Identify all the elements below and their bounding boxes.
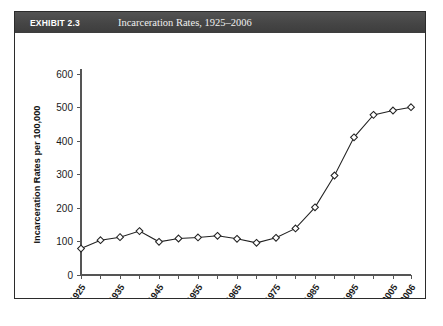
x-axis-tick-label: 1925 — [68, 282, 88, 298]
x-axis-tick-label: 2005 — [380, 282, 400, 298]
exhibit-title: Incarceration Rates, 1925–2006 — [118, 17, 252, 28]
x-axis-tick-label: 1935 — [107, 282, 127, 298]
data-point-marker — [331, 172, 338, 179]
x-axis-tick-label: 1965 — [224, 282, 244, 298]
x-axis: 1925193519451955196519751985199520052006 — [68, 275, 418, 298]
data-point-marker — [408, 104, 415, 111]
data-point-marker — [156, 238, 163, 245]
chart-plot-area: 0100200300400500600 19251935194519551965… — [15, 33, 425, 298]
x-axis-tick-label: 1945 — [146, 282, 166, 298]
incarceration-rates-line-chart: 0100200300400500600 19251935194519551965… — [15, 33, 425, 298]
data-point-marker — [234, 235, 241, 242]
y-axis-tick-label: 600 — [56, 69, 73, 80]
data-point-marker — [253, 239, 260, 246]
data-point-marker — [214, 232, 221, 239]
y-axis-tick-label: 200 — [56, 203, 73, 214]
data-point-marker — [390, 107, 397, 114]
exhibit-frame: EXHIBIT 2.3 Incarceration Rates, 1925–20… — [14, 11, 426, 299]
series-line-path — [81, 107, 411, 248]
y-axis-title-text: Incarceration Rates per 100,000 — [32, 106, 42, 244]
exhibit-header-banner: EXHIBIT 2.3 Incarceration Rates, 1925–20… — [15, 12, 425, 33]
data-point-marker — [78, 245, 85, 252]
exhibit-number-label: EXHIBIT 2.3 — [30, 18, 80, 28]
data-point-marker — [273, 234, 280, 241]
x-axis-tick-label: 1975 — [263, 282, 283, 298]
x-axis-tick-label: 1985 — [302, 282, 322, 298]
data-point-marker — [195, 234, 202, 241]
data-point-marker — [117, 234, 124, 241]
data-series-incarceration-rate — [78, 104, 415, 252]
data-point-marker — [136, 228, 143, 235]
x-axis-tick-label: 1955 — [185, 282, 205, 298]
data-point-marker — [175, 235, 182, 242]
y-axis-title: Incarceration Rates per 100,000 — [32, 106, 42, 244]
y-axis-tick-label: 300 — [56, 169, 73, 180]
data-point-marker — [97, 237, 104, 244]
y-axis-tick-label: 500 — [56, 102, 73, 113]
y-axis-tick-label: 0 — [67, 270, 73, 281]
y-axis-tick-label: 400 — [56, 136, 73, 147]
x-axis-tick-label: 2006 — [398, 282, 418, 298]
y-axis-tick-label: 100 — [56, 236, 73, 247]
x-axis-tick-label: 1995 — [341, 282, 361, 298]
